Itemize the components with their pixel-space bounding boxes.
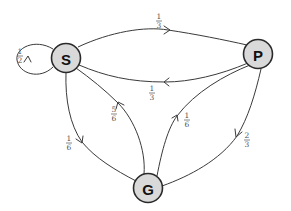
node-p-label: P: [253, 47, 263, 64]
svg-text:6: 6: [112, 114, 117, 123]
edge-label-g-to-p: 1 6: [184, 111, 190, 129]
edge-p-to-g: 2 3: [162, 69, 261, 186]
edge-s-to-s: 1 2: [17, 44, 53, 74]
edge-g-to-s: 5 6: [76, 68, 144, 174]
arrow-head-icon: [24, 56, 31, 62]
edge-p-to-s: 1 3: [79, 63, 248, 102]
edge-label-s-to-p: 1 3: [156, 12, 162, 30]
svg-text:3: 3: [245, 140, 250, 149]
svg-text:3: 3: [150, 93, 155, 102]
node-s-label: S: [61, 51, 71, 68]
edge-label-p-to-g: 2 3: [244, 131, 250, 149]
svg-text:2: 2: [18, 56, 23, 65]
svg-text:1: 1: [18, 47, 23, 56]
edge-label-p-to-s: 1 3: [149, 84, 155, 102]
svg-text:1: 1: [185, 111, 190, 120]
edge-s-to-g: 1 6: [66, 72, 136, 181]
node-g-label: G: [142, 181, 154, 198]
svg-text:6: 6: [185, 120, 190, 129]
svg-text:1: 1: [67, 134, 72, 143]
svg-text:5: 5: [112, 105, 117, 114]
node-s: S: [52, 44, 81, 73]
svg-text:1: 1: [150, 84, 155, 93]
arrow-head-icon: [76, 136, 83, 143]
markov-chain-diagram: 1 2 1 3 1 3 1 6: [0, 0, 291, 211]
node-g: G: [134, 174, 163, 203]
edge-label-g-to-s: 5 6: [111, 105, 117, 123]
edge-label-s-to-g: 1 6: [66, 134, 72, 152]
edge-label-s-to-s: 1 2: [17, 47, 23, 65]
node-p: P: [244, 40, 273, 69]
svg-text:6: 6: [67, 143, 72, 152]
svg-text:3: 3: [157, 21, 162, 30]
svg-text:1: 1: [157, 12, 162, 21]
svg-text:2: 2: [245, 131, 250, 140]
edge-s-to-p: 1 3: [78, 12, 247, 47]
